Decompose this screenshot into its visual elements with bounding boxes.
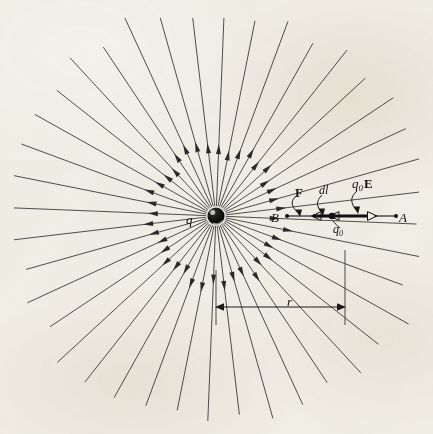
field-line	[216, 18, 224, 206]
force-label: F	[295, 186, 303, 199]
field-line-arrowhead	[252, 272, 260, 282]
field-line-arrowhead	[144, 190, 154, 196]
field-line-arrowhead	[157, 236, 167, 242]
field-line	[193, 18, 215, 206]
radius-dimension	[215, 250, 346, 325]
field-line	[208, 226, 216, 421]
field-line	[50, 222, 208, 327]
field-line-arrowhead	[272, 235, 282, 241]
field-line-arrowhead	[161, 245, 171, 253]
field-line-arrowhead	[173, 261, 181, 270]
diagram-vector-layer: .fline { stroke:#3c3c3c; stroke-width:0.…	[0, 0, 433, 434]
field-line-arrowhead	[264, 241, 274, 248]
field-line-arrowhead	[146, 202, 156, 207]
field-line-arrowhead	[164, 175, 173, 183]
field-line-arrowhead	[149, 230, 159, 235]
point-a-label: A	[399, 211, 407, 224]
field-line	[146, 225, 213, 405]
field-line-arrowhead	[206, 143, 211, 153]
point-b-label: B	[271, 211, 279, 224]
field-line	[222, 224, 328, 382]
field-line-arrowhead	[237, 266, 243, 276]
field-line-arrowhead	[200, 282, 205, 292]
field-line	[14, 217, 206, 240]
field-line-arrowhead	[225, 150, 230, 160]
field-line-arrowhead	[174, 153, 182, 163]
field-line-arrowhead	[235, 149, 241, 159]
field-line	[219, 21, 288, 206]
q0e-E: E	[364, 176, 373, 191]
field-line	[218, 21, 255, 206]
field-line-arrowhead	[216, 144, 221, 154]
q0e-sub: 0	[359, 183, 363, 193]
field-line-arrowhead	[195, 142, 200, 152]
radius-label: r	[287, 295, 292, 308]
field-line	[57, 223, 208, 363]
field-line-arrowhead	[211, 274, 216, 284]
field-line-arrowhead	[183, 145, 189, 155]
field-line-arrowhead	[229, 271, 234, 281]
charge-label: q	[186, 213, 193, 226]
field-line	[70, 58, 209, 209]
field-line	[225, 219, 402, 285]
field-line-arrowhead	[189, 278, 195, 288]
field-line-arrowhead	[283, 227, 293, 232]
field-line-arrowhead	[183, 264, 190, 274]
field-line	[21, 144, 206, 212]
displacement-label: dl	[319, 184, 328, 196]
field-line	[14, 208, 206, 216]
field-line-arrowhead	[221, 281, 226, 291]
field-line-arrowhead	[155, 182, 165, 189]
dl-d: dl	[319, 183, 328, 197]
physics-field-diagram: .fline { stroke:#3c3c3c; stroke-width:0.…	[0, 0, 433, 434]
field-line-arrowhead	[263, 252, 272, 260]
field-line	[217, 226, 239, 415]
field-force-label: q0 E	[352, 177, 373, 193]
field-line	[14, 176, 206, 214]
field-line	[177, 226, 214, 410]
field-line-arrowhead	[148, 211, 158, 216]
test-charge-label: q0	[333, 223, 343, 238]
q0-sub: 0	[339, 229, 343, 238]
field-line-arrowhead	[251, 161, 259, 170]
field-line-arrowhead	[260, 180, 270, 188]
field-line-arrowhead	[143, 221, 153, 226]
field-line-arrowhead	[267, 188, 277, 194]
field-line-arrowhead	[247, 149, 254, 159]
point-charge-marker	[207, 207, 224, 224]
field-line-arrowhead	[269, 198, 279, 203]
